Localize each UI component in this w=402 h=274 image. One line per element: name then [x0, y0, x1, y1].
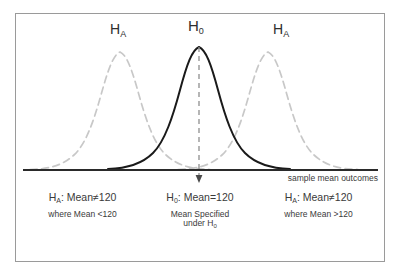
caption-primary-text: HA: Mean≠120: [20, 192, 145, 203]
curve-label-subscript: A: [283, 29, 289, 39]
caption-hypothesis-rest: : Mean=120: [178, 191, 234, 203]
caption-hypothesis-rest: : Mean≠120: [61, 191, 116, 203]
caption-under-prefix: under H: [183, 218, 213, 228]
curve-label-base: H: [110, 21, 120, 37]
axis-label-sample-mean-outcomes: sample mean outcomes: [268, 173, 378, 183]
curve-label-subscript: 0: [199, 26, 204, 36]
caption-hypothesis-subscript: 0: [174, 197, 178, 204]
curve-label-base: H: [273, 21, 283, 37]
curve-label-base: H: [188, 17, 199, 34]
curve-label-subscript: A: [120, 29, 126, 39]
caption-secondary-text: where Mean <120: [20, 210, 145, 219]
caption-secondary-text: where Mean >120: [256, 210, 381, 219]
curve-label-null: H0: [188, 18, 204, 33]
curve-label-alternative-right: HA: [273, 22, 289, 36]
distribution-plot: [0, 0, 402, 274]
caption-primary-text: H0: Mean=120: [139, 192, 261, 203]
curve-alternative-left: [30, 52, 210, 170]
curve-alternative-right: [178, 52, 358, 170]
caption-hypothesis-base: H: [166, 191, 174, 203]
caption-hypothesis-subscript: A: [292, 197, 297, 204]
caption-secondary-text: Mean Specified under H0: [139, 210, 261, 228]
caption-hypothesis-rest: : Mean≠120: [297, 191, 352, 203]
caption-hypothesis-subscript: A: [56, 197, 61, 204]
caption-alternative-left: HA: Mean≠120 where Mean <120: [20, 192, 145, 219]
null-mean-arrowhead: [196, 175, 203, 183]
caption-alternative-right: HA: Mean≠120 where Mean >120: [256, 192, 381, 219]
curve-label-alternative-left: HA: [110, 22, 126, 36]
caption-null-hypothesis: H0: Mean=120 Mean Specified under H0: [139, 192, 261, 228]
caption-primary-text: HA: Mean≠120: [256, 192, 381, 203]
caption-secondary-line-2: under H0: [139, 219, 261, 228]
caption-under-subscript: 0: [213, 223, 216, 229]
